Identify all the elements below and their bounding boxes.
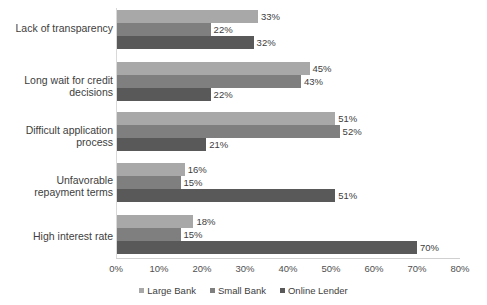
bar[interactable]: [116, 138, 206, 151]
bar-value-label: 15%: [181, 228, 203, 241]
bar-row: 22%: [116, 88, 487, 101]
bar-group: 51%52%21%: [116, 112, 487, 151]
bar[interactable]: [116, 112, 335, 125]
bar-value-label: 21%: [206, 138, 228, 151]
bar-row: 43%: [116, 75, 487, 88]
legend-swatch-icon: [280, 288, 285, 293]
legend-swatch-icon: [210, 288, 215, 293]
x-tick-label: 80%: [440, 263, 480, 274]
bar-row: 15%: [116, 176, 487, 189]
bar-row: 15%: [116, 228, 487, 241]
bar-row: 16%: [116, 163, 487, 176]
x-tick-label: 40%: [268, 263, 308, 274]
x-axis-line: [116, 258, 460, 259]
bar-value-label: 70%: [417, 241, 439, 254]
x-tick-label: 20%: [182, 263, 222, 274]
category-label-2: Difficult application process: [0, 124, 113, 148]
bar-row: 51%: [116, 189, 487, 202]
bar[interactable]: [116, 62, 310, 75]
category-label-1: Long wait for credit decisions: [0, 74, 113, 98]
category-label-line: Unfavorable: [0, 174, 113, 186]
category-label-3: Unfavorable repayment terms: [0, 174, 113, 198]
legend-label: Large Bank: [147, 285, 196, 296]
x-tick-label: 70%: [397, 263, 437, 274]
category-label-line: Long wait for credit: [0, 74, 113, 86]
bar-row: 33%: [116, 10, 487, 23]
bar-value-label: 51%: [335, 189, 357, 202]
bar-value-label: 18%: [193, 215, 215, 228]
bar-value-label: 33%: [258, 10, 280, 23]
bar-group: 45%43%22%: [116, 62, 487, 101]
bar-value-label: 22%: [211, 88, 233, 101]
legend-label: Small Bank: [218, 285, 266, 296]
bar-row: 18%: [116, 215, 487, 228]
bar-row: 45%: [116, 62, 487, 75]
legend-swatch-icon: [139, 288, 144, 293]
category-label-line: Lack of transparency: [0, 22, 113, 34]
bar[interactable]: [116, 189, 335, 202]
legend: Large Bank Small Bank Online Lender: [0, 285, 487, 296]
bar-value-label: 51%: [335, 112, 357, 125]
bar[interactable]: [116, 215, 193, 228]
category-label-line: Difficult application: [0, 124, 113, 136]
bar-value-label: 45%: [310, 62, 332, 75]
legend-label: Online Lender: [288, 285, 348, 296]
x-tick-label: 30%: [225, 263, 265, 274]
category-label-4: High interest rate: [0, 230, 113, 242]
category-label-line: decisions: [0, 86, 113, 98]
bar-row: 70%: [116, 241, 487, 254]
bar-row: 21%: [116, 138, 487, 151]
bar[interactable]: [116, 10, 258, 23]
bar-row: 22%: [116, 23, 487, 36]
y-axis-line: [116, 8, 117, 258]
legend-item-online-lender[interactable]: Online Lender: [280, 285, 348, 296]
bar[interactable]: [116, 163, 185, 176]
bar-value-label: 22%: [211, 23, 233, 36]
bar[interactable]: [116, 75, 301, 88]
bar[interactable]: [116, 88, 211, 101]
bar-group: 16%15%51%: [116, 163, 487, 202]
x-tick-label: 10%: [139, 263, 179, 274]
bar-group: 18%15%70%: [116, 215, 487, 254]
category-label-0: Lack of transparency: [0, 22, 113, 34]
legend-item-small-bank[interactable]: Small Bank: [210, 285, 266, 296]
bar[interactable]: [116, 36, 254, 49]
bar[interactable]: [116, 228, 181, 241]
x-tick-label: 0%: [96, 263, 136, 274]
bar[interactable]: [116, 176, 181, 189]
x-tick-label: 50%: [311, 263, 351, 274]
bar[interactable]: [116, 241, 417, 254]
bar[interactable]: [116, 125, 340, 138]
x-tick-label: 60%: [354, 263, 394, 274]
bar[interactable]: [116, 23, 211, 36]
bar-value-label: 32%: [254, 36, 276, 49]
bar-value-label: 15%: [181, 176, 203, 189]
category-label-line: High interest rate: [0, 230, 113, 242]
bar-chart: Lack of transparency Long wait for credi…: [0, 0, 487, 305]
bar-row: 32%: [116, 36, 487, 49]
bar-value-label: 16%: [185, 163, 207, 176]
bar-value-label: 43%: [301, 75, 323, 88]
legend-item-large-bank[interactable]: Large Bank: [139, 285, 196, 296]
bar-group: 33%22%32%: [116, 10, 487, 49]
category-label-line: repayment terms: [0, 186, 113, 198]
bar-row: 51%: [116, 112, 487, 125]
bar-row: 52%: [116, 125, 487, 138]
bar-value-label: 52%: [340, 125, 362, 138]
plot-area: Lack of transparency Long wait for credi…: [0, 0, 487, 305]
category-label-line: process: [0, 136, 113, 148]
